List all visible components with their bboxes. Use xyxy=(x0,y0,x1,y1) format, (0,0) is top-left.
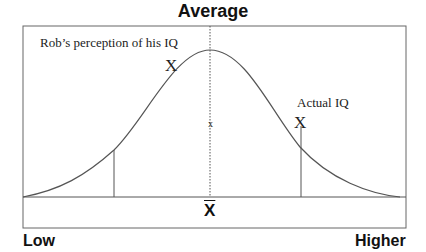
diagram-frame xyxy=(23,26,406,228)
mean-small-label: x xyxy=(208,118,213,129)
perceived-iq-marker: X xyxy=(165,56,177,76)
actual-iq-label: Actual IQ xyxy=(297,95,349,111)
mean-symbol: X xyxy=(204,201,215,221)
axis-high-label: Higher xyxy=(355,232,406,250)
perceived-iq-label: Rob’s perception of his IQ xyxy=(40,35,178,51)
actual-iq-marker: X xyxy=(294,113,306,133)
axis-low-label: Low xyxy=(23,232,55,250)
